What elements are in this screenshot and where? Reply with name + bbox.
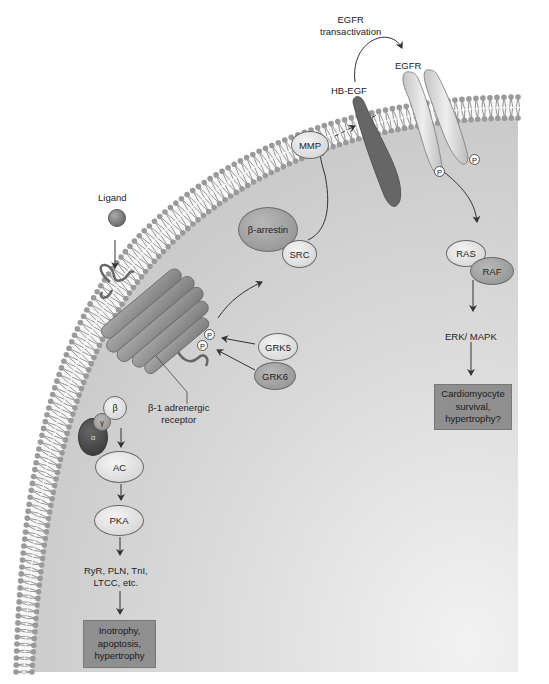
egfr-label: EGFR	[395, 60, 421, 72]
egfr-transactivation-label: EGFR transactivation	[320, 14, 381, 38]
outcome-box-left: Inotrophy, apoptosis, hypertrophy	[83, 620, 156, 668]
receptor-label-line2: receptor	[148, 414, 209, 426]
outcome-right-line3: hypertrophy?	[441, 413, 504, 426]
hb-egf-label: HB-EGF	[331, 85, 367, 97]
src-node: SRC	[282, 240, 317, 268]
outcome-right-line1: Cardiomyocyte	[441, 388, 504, 401]
receptor-label-line1: β-1 adrenergic	[148, 402, 209, 414]
outcome-right-line2: survival,	[441, 401, 504, 414]
receptor-label: β-1 adrenergic receptor	[148, 402, 209, 426]
pka-targets-label: RyR, PLN, TnI, LTCC, etc.	[84, 565, 148, 589]
phospho-receptor-2: P	[197, 340, 208, 351]
pka-targets-line1: RyR, PLN, TnI,	[84, 565, 148, 577]
egfr-transactivation-line1: EGFR	[320, 14, 381, 26]
ligand-label: Ligand	[98, 192, 127, 204]
egfr-transactivation-line2: transactivation	[320, 26, 381, 38]
outcome-box-right: Cardiomyocyte survival, hypertrophy?	[434, 384, 512, 430]
ac-node: AC	[95, 451, 144, 483]
mmp-node: MMP	[291, 131, 329, 159]
grk5-node: GRK5	[258, 333, 298, 361]
phospho-receptor-1: P	[204, 329, 215, 340]
outcome-left-line3: hypertrophy	[94, 650, 144, 663]
phospho-egfr-1: P	[434, 166, 445, 177]
g-beta-subunit: β	[103, 396, 127, 420]
pka-targets-line2: LTCC, etc.	[84, 577, 148, 589]
grk6-node: GRK6	[254, 362, 296, 390]
ligand	[108, 209, 126, 227]
erk-mapk-label: ERK/ MAPK	[445, 331, 497, 343]
pka-node: PKA	[94, 505, 144, 536]
outcome-left-line2: apoptosis,	[94, 638, 144, 651]
raf-node: RAF	[470, 257, 514, 285]
phospho-egfr-2: P	[469, 154, 480, 165]
outcome-left-line1: Inotrophy,	[94, 625, 144, 638]
